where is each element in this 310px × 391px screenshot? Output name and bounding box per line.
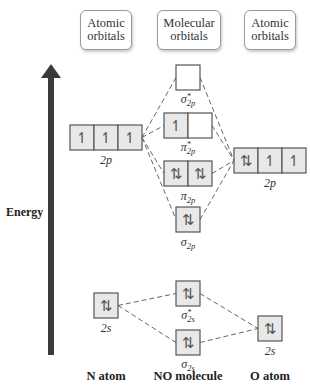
electron-pair-icon: ⇅ [182,285,195,303]
orbital-sigma-star-2s: ⇅ [176,281,200,306]
column-label-n-atom: N atom [86,369,125,384]
correlation-line [212,126,234,161]
electron-up-icon: ↿ [124,129,137,147]
electron-up-icon: ↿ [170,117,183,135]
orbital-sigma-2p: ⇅ [176,207,200,232]
orbital-label-o-2p: 2p [264,176,276,191]
orbital-label-sigma-star-2p: σ*2p [181,92,195,108]
orbital-label-o-2s: 2s [265,344,276,359]
orbital-label-sigma-2p: σ2p [181,235,195,251]
electron-pair-icon: ⇅ [194,165,207,183]
electron-up-icon: ↿ [288,152,301,170]
electron-up-icon: ↿ [100,129,113,147]
orbital-sigma-2s: ⇅ [176,330,200,355]
orbital-pi-star-2p: ↿ [164,113,212,138]
correlation-line [118,294,176,306]
correlation-line [200,329,258,343]
electron-up-icon: ↿ [76,129,89,147]
orbital-label-n-2s: 2s [101,321,112,336]
orbital-o-2s: ⇅ [258,316,282,341]
energy-arrow-icon [41,64,61,355]
orbital-cell [188,113,212,138]
correlation-line [118,306,176,343]
orbital-n-2s: ⇅ [94,293,118,318]
electron-up-icon: ↿ [264,152,277,170]
orbital-label-n-2p: 2p [100,153,112,168]
electron-pair-icon: ⇅ [100,297,113,315]
orbital-pi-2p: ⇅⇅ [164,161,212,186]
orbital-cell [176,65,200,90]
orbital-label-pi-star-2p: π*2p [181,140,196,156]
correlation-line [200,294,258,329]
orbital-sigma-star-2p [176,65,200,90]
electron-pair-icon: ⇅ [240,152,253,170]
energy-axis-label: Energy [6,205,43,220]
electron-pair-icon: ⇅ [264,320,277,338]
column-label-no-molecule: NO molecule [153,369,222,384]
orbital-n-2p: ↿↿↿ [70,125,142,150]
orbital-o-2p: ⇅↿↿ [234,148,306,173]
electron-pair-icon: ⇅ [170,165,183,183]
electron-pair-icon: ⇅ [182,334,195,352]
correlation-line [142,126,164,138]
electron-pair-icon: ⇅ [182,211,195,229]
correlation-line [142,138,164,174]
column-label-o-atom: O atom [250,369,290,384]
mo-diagram: ↿↿↿⇅↿↿↿⇅⇅⇅⇅⇅⇅⇅ [0,0,310,391]
orbital-label-sigma-star-2s: σ*2s [181,308,194,324]
orbital-label-pi-2p: π2p [181,189,196,205]
